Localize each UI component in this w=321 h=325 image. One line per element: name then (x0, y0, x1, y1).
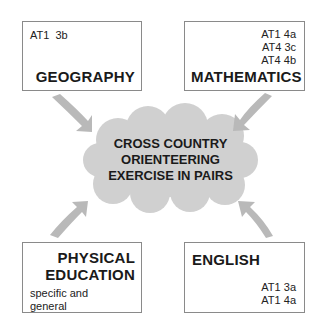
geography-title: GEOGRAPHY (36, 68, 135, 85)
physical-education-title-line-1: PHYSICAL (45, 249, 135, 266)
center-line-3: EXERCISE IN PAIRS (85, 168, 256, 184)
physical-education-notes: specific and general (30, 287, 88, 313)
mathematics-codes: AT1 4a AT4 3c AT4 4b (261, 28, 296, 67)
arrow-mathematics-to-center-icon (233, 93, 272, 131)
english-code-1: AT1 3a (261, 281, 296, 294)
mathematics-code-2: AT4 3c (261, 41, 296, 54)
arrow-english-to-center-icon (238, 201, 273, 238)
mathematics-code-1: AT1 4a (261, 28, 296, 41)
geography-box: AT1 3b GEOGRAPHY (22, 21, 142, 91)
english-codes: AT1 3a AT1 4a (261, 281, 296, 307)
english-code-2: AT1 4a (261, 294, 296, 307)
english-title: ENGLISH (192, 251, 260, 268)
english-box: ENGLISH AT1 3a AT1 4a (184, 242, 305, 313)
physical-education-note-1: specific and (30, 287, 88, 300)
center-line-2: ORIENTEERING (85, 152, 256, 168)
mathematics-title: MATHEMATICS (191, 68, 302, 85)
arrow-geography-to-center-icon (52, 94, 92, 132)
physical-education-box: PHYSICAL EDUCATION specific and general (22, 242, 142, 313)
center-topic: CROSS COUNTRY ORIENTEERING EXERCISE IN P… (85, 136, 256, 184)
arrow-physical-education-to-center-icon (50, 201, 88, 238)
physical-education-title: PHYSICAL EDUCATION (45, 249, 135, 283)
center-line-1: CROSS COUNTRY (85, 136, 256, 152)
geography-code: AT1 3b (30, 29, 68, 42)
physical-education-title-line-2: EDUCATION (45, 266, 135, 283)
mathematics-code-3: AT4 4b (261, 54, 296, 67)
mathematics-box: AT1 4a AT4 3c AT4 4b MATHEMATICS (184, 21, 305, 91)
physical-education-note-2: general (30, 300, 88, 313)
